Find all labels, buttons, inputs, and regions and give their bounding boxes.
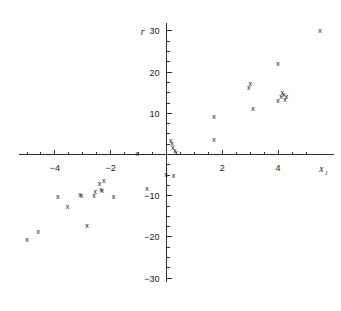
y-tick-label: 20 [149,68,159,78]
axis-titles-layer: rx1 [141,27,328,176]
x-axis-title-subscript: 1 [325,169,328,176]
x-tick-label: 2 [220,163,225,173]
data-point-marker: x [164,171,168,178]
data-points-layer: xxxxxxxxxxxxxxxxxxxxxxxxxxxxxxxxxxxx [25,27,322,243]
y-tick-label: −30 [144,274,159,284]
x-tick-label: −2 [106,163,116,173]
data-point-marker: x [251,105,255,112]
data-point-marker: x [36,228,40,235]
data-point-marker: x [318,27,322,34]
data-point-marker: x [212,113,216,120]
data-point-marker: x [92,192,96,199]
y-tick-label: −20 [144,232,159,242]
data-point-marker: x [56,193,60,200]
data-point-marker: x [212,136,216,143]
data-point-marker: x [80,192,84,199]
scatter-plot-figure: −4−224302010−10−20−30 xxxxxxxxxxxxxxxxxx… [0,0,341,311]
residual-scatter-chart: −4−224302010−10−20−30 xxxxxxxxxxxxxxxxxx… [0,0,341,311]
data-point-marker: x [112,193,116,200]
data-point-marker: x [247,84,251,91]
y-tick-label: 30 [149,26,159,36]
data-point-marker: x [172,172,176,179]
data-point-marker: x [85,222,89,229]
data-point-marker: x [101,187,105,194]
x-tick-label: −4 [50,163,60,173]
data-point-marker: x [25,236,29,243]
x-tick-label: 4 [276,163,281,173]
y-axis-title: r [141,27,145,37]
y-tick-label: 10 [149,109,159,119]
data-point-marker: x [102,177,106,184]
data-point-marker: x [175,149,179,156]
data-point-marker: x [135,150,139,157]
y-tick-label: −10 [144,191,159,201]
x-axis-title: x [318,164,324,174]
data-point-marker: x [276,60,280,67]
data-point-marker: x [283,96,287,103]
data-point-marker: x [145,185,149,192]
data-point-marker: x [66,203,70,210]
data-point-marker: x [276,97,280,104]
